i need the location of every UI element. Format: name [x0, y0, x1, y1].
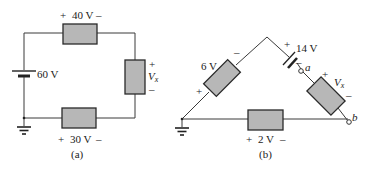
- polarity-plus: +: [322, 68, 328, 80]
- ground-icon: [17, 127, 31, 134]
- resistor-bottom: [248, 110, 283, 130]
- caption-a: (a): [71, 148, 84, 161]
- source-label: 60 V: [37, 68, 59, 80]
- polarity-plus: +: [246, 133, 252, 145]
- polarity-minus: –: [95, 9, 102, 21]
- polarity-minus: –: [95, 133, 102, 145]
- wire: [96, 94, 135, 118]
- voltage-label-30v: 30 V: [70, 133, 92, 145]
- resistor-top: [63, 24, 97, 44]
- terminal-a: [299, 69, 304, 74]
- polarity-plus: +: [196, 85, 202, 97]
- resistor-right: [125, 60, 145, 94]
- polarity-minus: –: [148, 83, 155, 95]
- polarity-minus: –: [233, 46, 240, 58]
- battery-60v: [12, 71, 36, 76]
- ground-icon: [175, 128, 189, 135]
- circuit-a: 60 V + 40 V – + Vx – + 30 V – (a): [12, 9, 159, 161]
- junction-dot: [23, 117, 26, 120]
- wire: [236, 37, 289, 65]
- battery-14v: [283, 52, 297, 68]
- vx-label: Vx: [334, 76, 345, 90]
- node-label-b: b: [352, 111, 358, 123]
- resistor-bottom: [62, 108, 96, 128]
- node-label-a: a: [305, 61, 311, 73]
- polarity-plus: +: [284, 38, 290, 50]
- vx-label: Vx: [148, 70, 159, 84]
- circuit-b: 6 V + – + 14 V – a + Vx – b + 2 V –: [175, 37, 358, 161]
- terminal-b: [347, 120, 352, 125]
- wire: [303, 72, 315, 84]
- polarity-minus: –: [295, 56, 302, 68]
- wire: [97, 33, 135, 60]
- voltage-label-6v: 6 V: [201, 60, 217, 72]
- junction-dot: [181, 118, 184, 121]
- polarity-plus: +: [58, 133, 64, 145]
- polarity-plus: +: [149, 58, 155, 70]
- voltage-label-2v: 2 V: [258, 133, 274, 145]
- polarity-minus: –: [345, 89, 352, 101]
- circuit-figure: 60 V + 40 V – + Vx – + 30 V – (a): [0, 0, 368, 170]
- voltage-label-14v: 14 V: [296, 42, 318, 54]
- caption-b: (b): [259, 148, 272, 161]
- polarity-plus: +: [60, 9, 66, 21]
- polarity-minus: –: [279, 133, 286, 145]
- voltage-label-40v: 40 V: [72, 9, 94, 21]
